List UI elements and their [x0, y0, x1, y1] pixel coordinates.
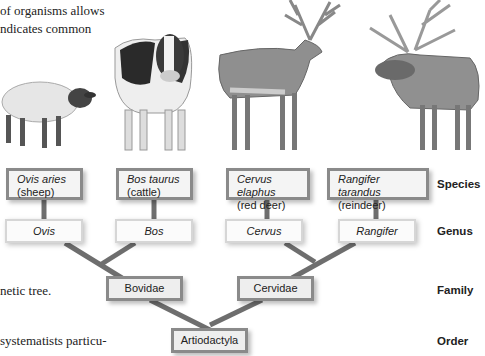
- species-scientific-name: Rangifer tarandus: [338, 173, 418, 199]
- family-box-cervidae: Cervidae: [237, 276, 314, 301]
- species-scientific-name: Ovis aries: [17, 173, 72, 186]
- species-scientific-name: Bos taurus: [127, 173, 182, 186]
- species-box-bos-taurus: Bos taurus (cattle): [116, 168, 193, 200]
- family-box-bovidae: Bovidae: [106, 276, 183, 301]
- species-scientific-name: Cervus elaphus: [237, 173, 299, 199]
- species-common-name: (red deer): [237, 199, 285, 211]
- species-box-rangifer-tarandus: Rangifer tarandus (reindeer): [327, 168, 429, 200]
- genus-box-rangifer: Rangifer: [338, 219, 416, 243]
- species-common-name: (sheep): [17, 186, 54, 198]
- species-box-ovis-aries: Ovis aries (sheep): [6, 168, 83, 200]
- rank-label-order: Order: [437, 335, 468, 347]
- genus-box-ovis: Ovis: [5, 219, 83, 243]
- species-common-name: (reindeer): [338, 199, 386, 211]
- species-box-cervus-elaphus: Cervus elaphus (red deer): [226, 168, 310, 200]
- genus-box-bos: Bos: [115, 219, 193, 243]
- genus-box-cervus: Cervus: [225, 219, 303, 243]
- rank-label-genus: Genus: [437, 225, 473, 237]
- rank-label-family: Family: [437, 284, 473, 296]
- species-common-name: (cattle): [127, 186, 161, 198]
- rank-label-species: Species: [437, 178, 480, 190]
- order-box-artiodactyla: Artiodactyla: [171, 328, 248, 353]
